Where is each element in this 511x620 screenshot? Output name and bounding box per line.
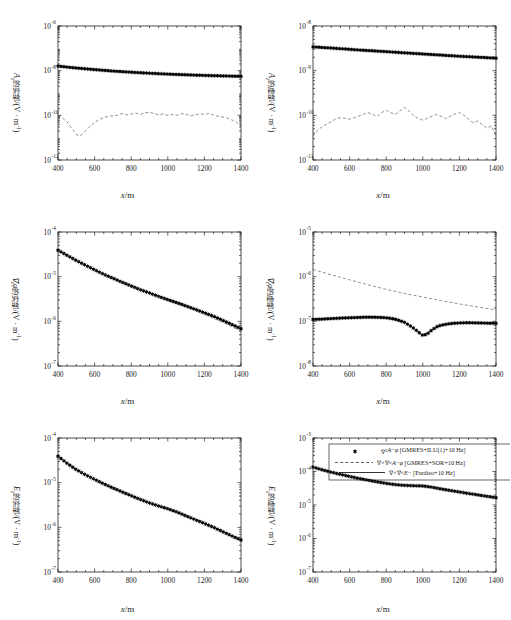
y-axis-label: Ez的实部/(V · m-1) — [8, 412, 24, 620]
x-axis-label: x/m — [255, 190, 511, 200]
plot-area: 40060080010001200140010-710-610-510-410-… — [255, 412, 510, 618]
y-tick-label: 10 — [44, 568, 52, 577]
series-dashed-line — [58, 112, 241, 135]
x-tick-label: 1200 — [452, 164, 467, 173]
y-tick-label: 10 — [299, 66, 307, 75]
y-tick-label: 10 — [299, 434, 307, 443]
x-tick-label: 1400 — [234, 164, 249, 173]
plot-panel-panel-bottom-right: 40060080010001200140010-710-610-510-410-… — [255, 412, 511, 620]
x-tick-label: 1200 — [452, 576, 467, 585]
y-tick-label: 10 — [299, 317, 307, 326]
x-axis-label: x/m — [0, 604, 255, 614]
x-axis-label: x/m — [0, 190, 255, 200]
plot-area: 40060080010001200140010-710-610-510-4 — [0, 206, 255, 412]
x-tick-label: 1400 — [234, 576, 249, 585]
y-tick-label: 10 — [299, 272, 307, 281]
series-solid-line — [313, 317, 496, 335]
plot-area: 40060080010001200140010-810-710-610-5 — [255, 206, 510, 412]
y-tick-label: 10 — [44, 22, 52, 31]
y-tick-exponent: -7 — [307, 565, 312, 571]
plot-area: 40060080010001200140010-1110-1010-910-8 — [255, 0, 510, 206]
x-tick-label: 400 — [52, 164, 63, 173]
y-tick-exponent: -10 — [52, 109, 59, 115]
x-tick-label: 800 — [381, 370, 392, 379]
y-tick-exponent: -8 — [52, 64, 57, 70]
y-tick-exponent: -6 — [307, 532, 312, 538]
y-tick-label: 10 — [299, 501, 307, 510]
x-tick-label: 800 — [126, 164, 137, 173]
x-tick-label: 1200 — [197, 576, 212, 585]
y-tick-exponent: -7 — [52, 359, 57, 365]
y-tick-label: 10 — [44, 317, 52, 326]
y-tick-exponent: -6 — [307, 270, 312, 276]
x-tick-label: 1400 — [489, 576, 504, 585]
x-tick-label: 1200 — [197, 370, 212, 379]
y-tick-exponent: -9 — [307, 64, 312, 70]
x-axis-label: x/m — [255, 396, 511, 406]
y-tick-label: 10 — [44, 478, 52, 487]
y-tick-label: 10 — [299, 568, 307, 577]
x-tick-label: 800 — [126, 370, 137, 379]
y-tick-label: 10 — [44, 272, 52, 281]
x-tick-label: 800 — [381, 576, 392, 585]
plot-panel-panel-top-left: 40060080010001200140010-1210-1010-810-6A… — [0, 0, 255, 206]
plot-panel-panel-mid-left: 40060080010001200140010-710-610-510-4∇zφ… — [0, 206, 255, 412]
x-tick-label: 1400 — [234, 370, 249, 379]
y-tick-exponent: -3 — [307, 431, 312, 437]
y-tick-label: 10 — [44, 66, 52, 75]
x-tick-label: 1200 — [197, 164, 212, 173]
x-tick-label: 800 — [126, 576, 137, 585]
y-tick-exponent: -5 — [307, 225, 312, 231]
x-tick-label: 1000 — [415, 576, 430, 585]
x-tick-label: 1000 — [415, 164, 430, 173]
y-tick-exponent: -4 — [52, 225, 57, 231]
y-tick-label: 10 — [299, 467, 307, 476]
x-axis-label: x/m — [255, 604, 511, 614]
x-tick-label: 400 — [307, 164, 318, 173]
x-tick-label: 400 — [307, 370, 318, 379]
y-tick-exponent: -5 — [52, 476, 57, 482]
y-tick-exponent: -6 — [52, 521, 57, 527]
x-tick-label: 600 — [89, 370, 100, 379]
y-tick-label: 10 — [44, 523, 52, 532]
series-dashed-line — [58, 456, 241, 540]
x-tick-label: 600 — [89, 164, 100, 173]
plot-panel-panel-top-right: 40060080010001200140010-1110-1010-910-8A… — [255, 0, 511, 206]
x-tick-label: 600 — [89, 576, 100, 585]
y-axis-label: ∇zφ的实部/(V · m-1) — [8, 206, 24, 412]
x-tick-label: 800 — [381, 164, 392, 173]
x-tick-label: 400 — [307, 576, 318, 585]
legend-label-2: ∇×∇×E− [Pardiso+10 Hz] — [388, 469, 455, 477]
x-tick-label: 1000 — [160, 576, 175, 585]
y-tick-exponent: -7 — [52, 565, 57, 571]
figure-container: 40060080010001200140010-1210-1010-810-6A… — [0, 0, 511, 620]
y-tick-label: 10 — [299, 111, 307, 120]
series-markers — [56, 248, 243, 331]
y-tick-label: 10 — [299, 362, 307, 371]
x-tick-label: 1000 — [160, 370, 175, 379]
y-tick-exponent: -8 — [307, 19, 312, 25]
y-axis-label: ∇zφ的虚部/(V · m-1) — [263, 206, 279, 412]
plot-panel-panel-bottom-left: 40060080010001200140010-710-610-510-4Ez的… — [0, 412, 255, 620]
series-dashed-line — [313, 107, 496, 136]
y-tick-exponent: -10 — [307, 109, 314, 115]
x-tick-label: 1400 — [489, 370, 504, 379]
y-tick-label: 10 — [299, 534, 307, 543]
series-markers — [56, 64, 243, 78]
x-tick-label: 600 — [344, 164, 355, 173]
x-tick-label: 1200 — [452, 370, 467, 379]
y-axis-label: Az的实部/(V · m-1) — [8, 0, 24, 206]
series-dashed-line — [58, 250, 241, 331]
y-tick-label: 10 — [299, 156, 307, 165]
y-axis-label: Ez的虚部/(V · m-1) — [263, 412, 279, 620]
x-tick-label: 600 — [344, 576, 355, 585]
y-tick-label: 10 — [44, 434, 52, 443]
x-tick-label: 600 — [344, 370, 355, 379]
y-tick-exponent: -8 — [307, 359, 312, 365]
y-tick-exponent: -11 — [307, 153, 314, 159]
y-tick-label: 10 — [299, 228, 307, 237]
series-solid-line — [313, 47, 496, 58]
y-tick-exponent: -5 — [307, 498, 312, 504]
y-axis-label: Az的虚部/(V · m-1) — [263, 0, 279, 206]
series-dashed-line — [313, 269, 496, 309]
